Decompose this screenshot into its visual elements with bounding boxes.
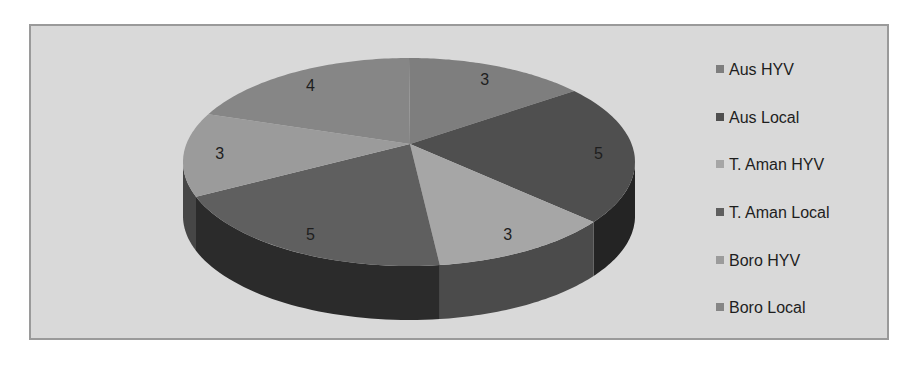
legend-item-t-aman-hyv: T. Aman HYV [716, 153, 824, 177]
legend-item-aus-hyv: Aus HYV [716, 58, 794, 82]
pie-data-label: 5 [306, 226, 315, 243]
pie-data-label: 4 [306, 77, 315, 94]
pie-data-label: 3 [503, 226, 512, 243]
legend-label: T. Aman HYV [729, 156, 824, 174]
legend-item-boro-local: Boro Local [716, 296, 806, 320]
legend-swatch-icon [716, 160, 724, 168]
legend-swatch-icon [716, 65, 724, 73]
legend-item-aus-local: Aus Local [716, 106, 799, 130]
pie-data-label: 3 [215, 145, 224, 162]
pie-data-label: 3 [480, 71, 489, 88]
legend-swatch-icon [716, 256, 724, 264]
legend-label: Boro Local [729, 299, 806, 317]
legend-label: Aus Local [729, 109, 799, 127]
legend-swatch-icon [716, 208, 724, 216]
pie-top-face [183, 58, 635, 266]
legend-label: Boro HYV [729, 252, 800, 270]
legend-label: Aus HYV [729, 61, 794, 79]
legend-item-t-aman-local: T. Aman Local [716, 201, 830, 225]
legend-label: T. Aman Local [729, 204, 830, 222]
legend-item-boro-hyv: Boro HYV [716, 249, 800, 273]
legend-swatch-icon [716, 303, 724, 311]
pie-data-label: 5 [594, 145, 603, 162]
legend-swatch-icon [716, 113, 724, 121]
